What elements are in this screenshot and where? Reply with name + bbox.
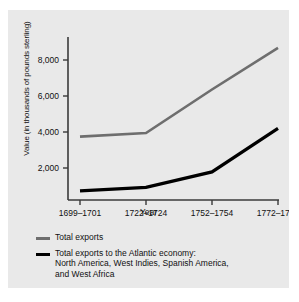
legend-label-line3: and West Africa [55, 269, 229, 280]
legend-swatch-cell [8, 232, 50, 240]
plot-area: Value (in thousands of pounds sterling) … [8, 10, 289, 220]
legend-label-total-exports: Total exports [50, 232, 103, 243]
y-tick-label-2000: 2,000 [38, 163, 60, 173]
y-tick-label-6000: 6,000 [38, 91, 60, 101]
chart-svg: 8,000 6,000 4,000 2,000 1699–1701 1722–1… [8, 10, 289, 220]
y-tick-label-4000: 4,000 [38, 127, 60, 137]
legend-item-atlantic-economy: Total exports to the Atlantic economy: N… [8, 248, 289, 280]
legend-swatch-cell [8, 248, 50, 256]
legend-swatch-atlantic-economy [36, 253, 50, 256]
legend-label-atlantic-economy: Total exports to the Atlantic economy: N… [50, 248, 229, 280]
chart-legend: Total exports Total exports to the Atlan… [8, 232, 289, 284]
legend-label-line1: Total exports to the Atlantic economy: [55, 248, 196, 258]
legend-swatch-total-exports [36, 237, 50, 240]
legend-item-total-exports: Total exports [8, 232, 289, 243]
legend-label-line2: North America, West Indies, Spanish Amer… [55, 258, 229, 269]
legend-label-line1: Total exports [55, 232, 103, 242]
series-line-atlantic-economy [80, 128, 278, 190]
y-tick-label-8000: 8,000 [38, 55, 60, 65]
x-axis-title: Year [8, 207, 289, 217]
series-line-total-exports [80, 48, 278, 137]
chart-figure: Value (in thousands of pounds sterling) … [8, 10, 289, 288]
